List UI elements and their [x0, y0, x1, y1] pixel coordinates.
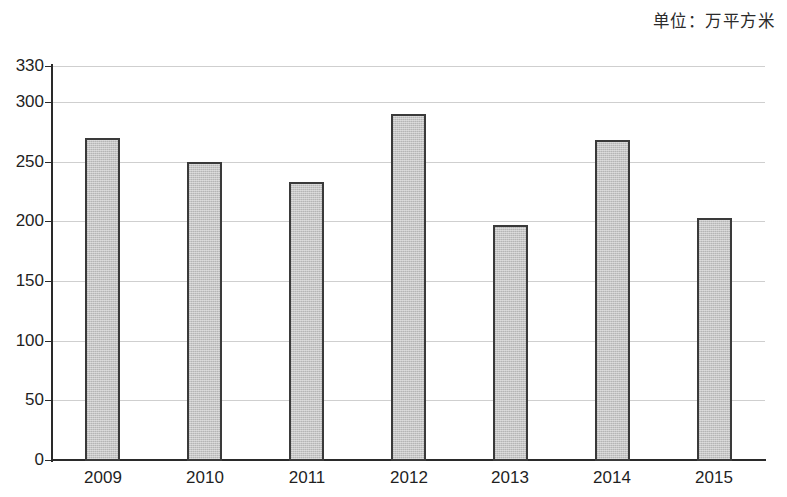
- y-axis-tick-label: 0: [0, 450, 44, 470]
- unit-caption: 单位：万平方米: [653, 8, 776, 32]
- gridline: [52, 102, 765, 103]
- y-axis-tick-label: 50: [0, 390, 44, 410]
- bar-chart-figure: 单位：万平方米 050100150200250300330 2009201020…: [0, 0, 787, 497]
- x-axis-tick-label: 2010: [160, 468, 250, 488]
- bar-2010: [187, 162, 222, 461]
- x-axis-tick-label: 2015: [669, 468, 759, 488]
- gridline: [52, 66, 765, 67]
- x-axis-tick-label: 2011: [262, 468, 352, 488]
- y-axis-tick-label: 150: [0, 271, 44, 291]
- y-axis-tick-label: 200: [0, 211, 44, 231]
- x-axis-tick-label: 2012: [364, 468, 454, 488]
- y-axis-tick: [45, 341, 53, 342]
- bar-2012: [391, 114, 426, 461]
- y-axis-tick: [45, 460, 53, 461]
- y-axis-tick: [45, 400, 53, 401]
- y-axis-tick-label: 300: [0, 92, 44, 112]
- y-axis-tick-label: 330: [0, 56, 44, 76]
- bar-2011: [289, 182, 324, 461]
- x-axis-tick-label: 2009: [58, 468, 148, 488]
- y-axis-tick: [45, 66, 53, 67]
- bar-2015: [697, 218, 732, 461]
- y-axis-tick: [45, 162, 53, 163]
- bar-2013: [493, 225, 528, 461]
- y-axis-tick: [45, 102, 53, 103]
- y-axis-tick: [45, 281, 53, 282]
- x-axis-tick-label: 2014: [567, 468, 657, 488]
- y-axis-line: [51, 64, 53, 462]
- bar-2009: [85, 138, 120, 461]
- y-axis-labels: 050100150200250300330: [0, 0, 44, 497]
- y-axis-tick-label: 250: [0, 152, 44, 172]
- x-axis-tick-label: 2013: [465, 468, 555, 488]
- bar-2014: [595, 140, 630, 461]
- y-axis-tick-label: 100: [0, 331, 44, 351]
- y-axis-tick: [45, 221, 53, 222]
